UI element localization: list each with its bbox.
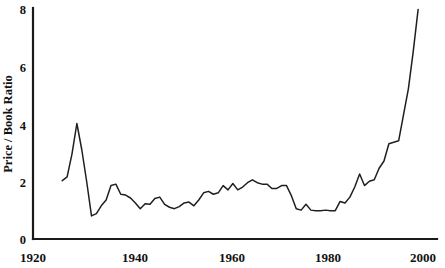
y-tick-label-6: 6 xyxy=(20,61,26,75)
x-tick-label-1940: 1940 xyxy=(122,250,148,265)
y-tick-label-2: 2 xyxy=(20,176,26,190)
y-tick-label-4: 4 xyxy=(20,119,27,133)
price-book-ratio-line xyxy=(62,9,418,215)
x-tick-label-1980: 1980 xyxy=(315,250,341,265)
x-tick-label-2000: 2000 xyxy=(410,250,436,265)
x-tick-label-1920: 1920 xyxy=(20,250,46,265)
y-tick-label-8: 8 xyxy=(20,3,26,17)
y-tick-label-0: 0 xyxy=(20,233,26,247)
y-axis-title: Price / Book Ratio xyxy=(1,75,15,173)
chart-canvas: 8 6 4 2 0 1920 1940 1960 1980 2000 Price… xyxy=(0,0,445,268)
x-tick-label-1960: 1960 xyxy=(219,250,245,265)
price-book-ratio-chart: 8 6 4 2 0 1920 1940 1960 1980 2000 Price… xyxy=(0,0,445,268)
